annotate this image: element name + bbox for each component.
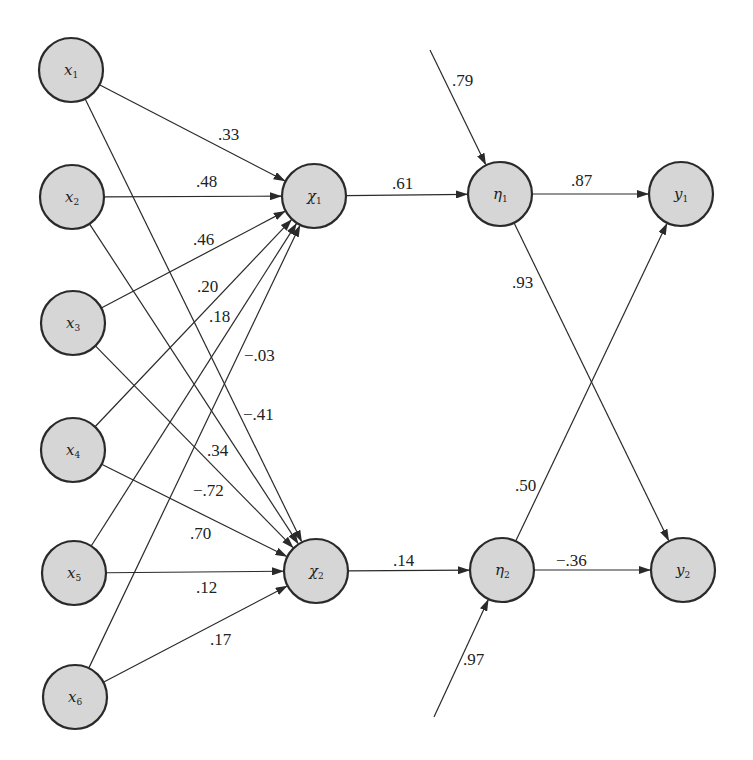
- path-weight-x3-chi1: .46: [193, 230, 214, 249]
- path-weight-x6-chi2: .17: [210, 630, 232, 649]
- path-x5-chi2: [106, 571, 283, 572]
- node-chi1: χ1: [282, 164, 346, 228]
- path-diagram: x1x2x3x4x5x6χ1χ2η1η2y1y2 .33.48.46.20.18…: [0, 0, 753, 760]
- path-weight-eta1-y1: .87: [571, 171, 593, 190]
- path-x4-chi1: [95, 220, 291, 427]
- diagram-canvas: x1x2x3x4x5x6χ1χ2η1η2y1y2 .33.48.46.20.18…: [0, 0, 753, 760]
- path-weight-x3-chi2: −.72: [193, 481, 224, 500]
- path-weight-x1-chi2: −.41: [243, 405, 274, 424]
- path-weight-chi1-eta1: .61: [392, 174, 413, 193]
- node-y2: y2: [651, 538, 715, 602]
- node-y1: y1: [649, 162, 713, 226]
- path-weight-x4-chi2: .70: [190, 524, 211, 543]
- node-x1: x1: [39, 38, 103, 102]
- path-x3-chi2: [95, 346, 293, 548]
- path-weight-x4-chi1: .20: [197, 277, 218, 296]
- path-weight-x1-chi1: .33: [218, 125, 239, 144]
- path-weight-x6-chi1: −.03: [244, 346, 275, 365]
- path-weight-eta1-y2: .93: [512, 273, 533, 292]
- path-weight-eta2-y2: −.36: [556, 551, 587, 570]
- node-x4: x4: [41, 418, 105, 482]
- path-x2-chi1: [104, 196, 281, 197]
- path-x6-chi2: [103, 586, 286, 682]
- node-x2: x2: [40, 165, 104, 229]
- path-eta2-y1: [516, 224, 667, 541]
- node-eta1: η1: [468, 162, 532, 226]
- error-weight-eta2: .97: [463, 650, 485, 669]
- path-weight-x2-chi2: .34: [207, 441, 229, 460]
- path-weight-x5-chi2: .12: [196, 578, 217, 597]
- node-x3: x3: [41, 291, 105, 355]
- node-x5: x5: [42, 541, 106, 605]
- path-weight-chi2-eta2: .14: [393, 551, 415, 570]
- error-weight-eta1: .79: [452, 71, 473, 90]
- path-x3-chi1: [101, 211, 284, 308]
- node-eta2: η2: [470, 538, 534, 602]
- error-path-eta1: [430, 50, 486, 164]
- path-chi2-eta2: [348, 570, 469, 571]
- path-weight-x2-chi1: .48: [196, 172, 217, 191]
- path-weight-x5-chi1: .18: [209, 307, 230, 326]
- path-chi1-eta1: [346, 194, 467, 195]
- node-chi2: χ2: [284, 539, 348, 603]
- node-x6: x6: [43, 665, 107, 729]
- path-x1-chi1: [99, 85, 284, 181]
- path-weight-eta2-y1: .50: [515, 476, 536, 495]
- path-x1-chi2: [85, 99, 301, 542]
